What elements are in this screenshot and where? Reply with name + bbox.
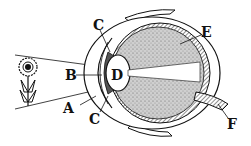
eye-diagram: C B D A C E F (0, 0, 251, 146)
label-f: F (227, 116, 237, 132)
label-b: B (65, 67, 77, 83)
label-c-top: C (93, 17, 104, 33)
label-e: E (201, 24, 212, 40)
label-d: D (111, 67, 123, 83)
flower-object (19, 58, 37, 106)
label-a: A (62, 100, 75, 116)
label-c-bottom: C (89, 111, 100, 127)
